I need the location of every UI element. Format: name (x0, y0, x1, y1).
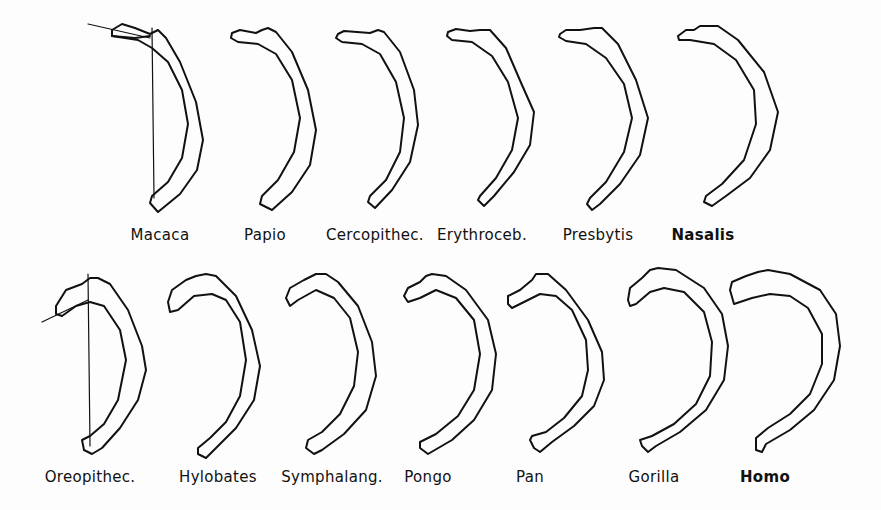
rib-erythrocebus (447, 29, 534, 206)
label-oreopithecus: Oreopithec. (45, 468, 136, 486)
label-erythrocebus: Erythroceb. (437, 226, 527, 244)
label-papio: Papio (244, 226, 286, 244)
label-gorilla: Gorilla (629, 468, 680, 486)
rib-presbytis (559, 28, 648, 210)
rib-drawings (0, 0, 881, 510)
label-pan: Pan (516, 468, 544, 486)
rib-symphalangus (286, 274, 376, 454)
rib-oreopithecus (42, 274, 146, 454)
label-nasalis: Nasalis (671, 226, 734, 244)
rib-macaca (88, 24, 203, 212)
label-cercopithecus: Cercopithec. (326, 226, 424, 244)
rib-gorilla (628, 268, 728, 452)
rib-pan (508, 274, 604, 452)
rib-hylobates (168, 274, 260, 458)
rib-cercopithecus (336, 30, 418, 208)
rib-nasalis (678, 26, 778, 206)
rib-pongo (404, 274, 496, 454)
label-presbytis: Presbytis (563, 226, 634, 244)
rib-homo (730, 270, 840, 452)
label-hylobates: Hylobates (179, 468, 257, 486)
rib-papio (231, 28, 316, 210)
label-homo: Homo (740, 468, 790, 486)
label-symphalangus: Symphalang. (281, 468, 383, 486)
label-macaca: Macaca (131, 226, 190, 244)
rib-comparison-figure: Macaca Papio Cercopithec. Erythroceb. Pr… (0, 0, 881, 510)
label-pongo: Pongo (404, 468, 451, 486)
